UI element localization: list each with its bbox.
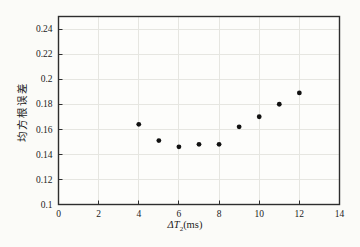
x-tick-label: 6 bbox=[177, 209, 182, 219]
data-point bbox=[277, 102, 282, 107]
data-point bbox=[136, 122, 141, 127]
y-tick-label: 0.14 bbox=[36, 150, 53, 160]
y-tick-label: 0.2 bbox=[41, 74, 53, 84]
x-axis-unit: (ms) bbox=[183, 219, 202, 230]
data-point bbox=[156, 138, 161, 143]
y-tick-label: 0.24 bbox=[36, 24, 53, 34]
data-point bbox=[217, 142, 222, 147]
rmse-scatter-figure: 024681012140.10.120.140.160.180.20.220.2… bbox=[0, 0, 360, 247]
data-point bbox=[297, 91, 302, 96]
y-axis-title: 均方根误差 bbox=[14, 82, 29, 142]
x-tick-label: 2 bbox=[96, 209, 101, 219]
data-point bbox=[177, 144, 182, 149]
x-tick-label: 10 bbox=[254, 209, 264, 219]
data-point bbox=[257, 114, 262, 119]
y-tick-label: 0.16 bbox=[36, 125, 53, 135]
x-tick-label: 8 bbox=[217, 209, 222, 219]
y-tick-label: 0.18 bbox=[36, 99, 53, 109]
y-tick-label: 0.12 bbox=[36, 175, 53, 185]
y-tick-label: 0.1 bbox=[41, 200, 53, 210]
x-tick-label: 4 bbox=[136, 209, 141, 219]
scatter-chart-canvas: 024681012140.10.120.140.160.180.20.220.2… bbox=[0, 0, 360, 247]
x-tick-label: 14 bbox=[335, 209, 345, 219]
x-tick-label: 0 bbox=[56, 209, 61, 219]
y-tick-label: 0.22 bbox=[36, 49, 53, 59]
plot-area bbox=[59, 17, 340, 205]
data-point bbox=[197, 142, 202, 147]
x-axis-title: ΔT2(ms) bbox=[58, 219, 312, 233]
x-tick-label: 12 bbox=[295, 209, 305, 219]
x-axis-variable: ΔT bbox=[168, 219, 180, 230]
data-point bbox=[237, 124, 242, 129]
